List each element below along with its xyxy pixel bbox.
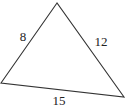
triangle-shape: [1, 3, 124, 97]
triangle-diagram: 8 12 15: [0, 0, 126, 106]
right-side-label: 12: [95, 34, 108, 49]
bottom-side-label: 15: [53, 93, 66, 106]
left-side-label: 8: [20, 29, 27, 44]
